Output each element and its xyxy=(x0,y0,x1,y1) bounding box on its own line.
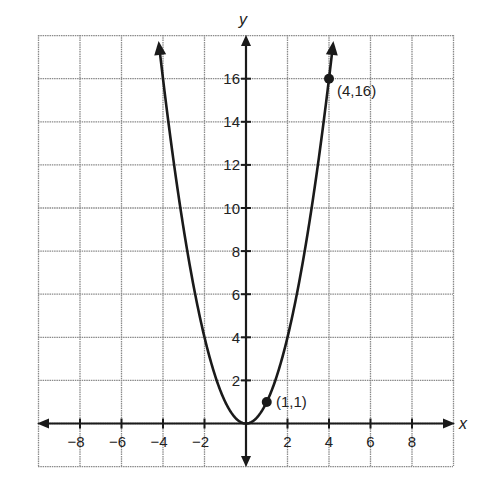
y-axis-label: y xyxy=(238,11,248,28)
y-tick-label: 16 xyxy=(223,70,240,87)
y-axis-up-arrow-icon xyxy=(241,35,251,46)
x-tick-label: 2 xyxy=(283,433,291,450)
x-tick-label: 8 xyxy=(408,433,416,450)
point-1-1 xyxy=(262,397,272,407)
y-tick-labels: 246810121416 xyxy=(223,70,240,389)
y-tick-label: 12 xyxy=(223,156,240,173)
x-tick-label: 6 xyxy=(366,433,374,450)
curve-left-arrow-icon xyxy=(154,41,166,56)
x-tick-label: −2 xyxy=(192,433,209,450)
y-tick-label: 10 xyxy=(223,200,240,217)
x-axis-label: x xyxy=(458,415,468,432)
x-tick-label: −6 xyxy=(109,433,126,450)
x-tick-label: −8 xyxy=(67,433,84,450)
point-1-1-label: (1,1) xyxy=(276,393,307,410)
x-tick-labels: −8−6−4−22468 xyxy=(67,433,416,450)
point-4-16-label: (4,16) xyxy=(337,82,376,99)
y-axis-down-arrow-icon xyxy=(241,456,251,467)
y-tick-label: 2 xyxy=(232,372,240,389)
y-tick-label: 8 xyxy=(232,243,240,260)
parabola-chart: −8−6−4−22468 246810121416 x y (1,1) (4,1… xyxy=(0,0,492,495)
y-tick-label: 14 xyxy=(223,113,240,130)
point-4-16 xyxy=(324,74,334,84)
x-tick-label: −4 xyxy=(150,433,167,450)
curve-right-arrow-icon xyxy=(326,41,338,56)
y-tick-label: 4 xyxy=(232,329,240,346)
x-tick-label: 4 xyxy=(325,433,333,450)
y-tick-label: 6 xyxy=(232,286,240,303)
